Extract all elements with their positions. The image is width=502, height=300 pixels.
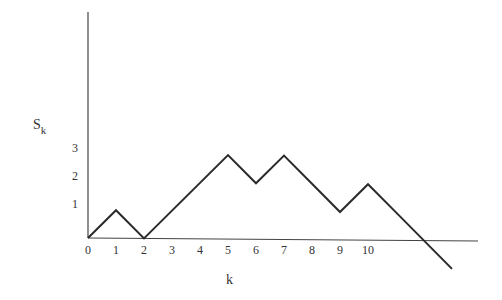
x-tick-label: 9 [337, 243, 343, 257]
x-tick-label: 10 [362, 243, 374, 257]
x-tick-labels: 012345678910 [85, 243, 374, 257]
y-tick-labels: 123 [72, 141, 78, 211]
x-tick-label: 2 [141, 243, 147, 257]
x-tick-label: 5 [225, 243, 231, 257]
x-tick-label: 3 [169, 243, 175, 257]
y-axis-label: Sk [33, 117, 47, 136]
y-tick-label: 2 [72, 169, 78, 183]
x-tick-label: 4 [197, 243, 203, 257]
x-tick-label: 7 [281, 243, 287, 257]
y-tick-label: 3 [72, 141, 78, 155]
x-tick-label: 8 [309, 243, 315, 257]
random-walk-chart: 123 012345678910 Sk k [0, 0, 502, 300]
x-tick-label: 6 [253, 243, 259, 257]
x-tick-label: 1 [113, 243, 119, 257]
x-tick-label: 0 [85, 243, 91, 257]
y-tick-label: 1 [72, 197, 78, 211]
x-axis-label: k [226, 272, 233, 287]
x-axis [88, 238, 478, 241]
